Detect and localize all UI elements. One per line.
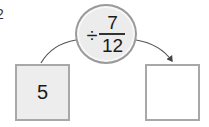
- operation-circle: ÷ 7 12: [75, 4, 137, 64]
- answer-box[interactable]: [145, 64, 200, 121]
- fraction-denominator: 12: [102, 36, 123, 56]
- right-arc-arrow: [136, 40, 172, 61]
- division-sign: ÷: [87, 24, 98, 47]
- input-box: 5: [15, 64, 70, 121]
- left-arc: [41, 40, 76, 63]
- input-value: 5: [37, 81, 48, 104]
- fraction-numerator: 7: [107, 13, 118, 32]
- fraction: 7 12: [99, 13, 125, 56]
